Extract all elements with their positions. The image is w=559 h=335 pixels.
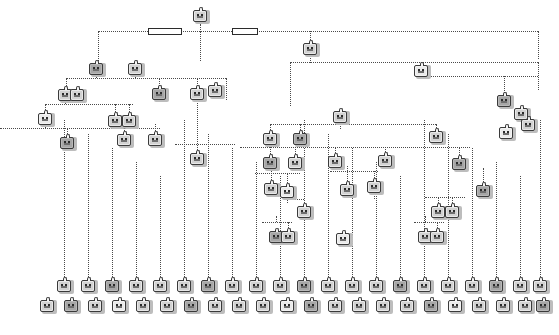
node-n25[interactable]	[263, 154, 279, 171]
node-leaf-u15[interactable]	[417, 277, 433, 294]
node-n34[interactable]	[476, 182, 492, 199]
connector-label-box-1[interactable]	[148, 28, 182, 35]
node-n28[interactable]	[378, 152, 394, 169]
node-leaf-l16[interactable]	[424, 297, 440, 314]
node-leaf-u0[interactable]	[57, 277, 73, 294]
node-n27[interactable]	[328, 153, 344, 170]
node-n24[interactable]	[190, 150, 206, 167]
node-leaf-l6[interactable]	[184, 297, 200, 314]
connector-v	[232, 148, 233, 277]
node-n1[interactable]	[303, 40, 319, 57]
node-mouth-icon	[340, 239, 346, 241]
node-n19[interactable]	[263, 130, 279, 147]
node-n18[interactable]	[148, 131, 164, 148]
node-n26[interactable]	[288, 154, 304, 171]
node-leaf-l17[interactable]	[448, 297, 464, 314]
node-n8[interactable]	[190, 85, 206, 102]
node-n13[interactable]	[38, 110, 54, 127]
node-face	[342, 186, 352, 194]
node-leaf-u7[interactable]	[225, 277, 241, 294]
node-leaf-u10[interactable]	[297, 277, 313, 294]
briefcase-face-icon	[414, 65, 428, 77]
node-leaf-l1[interactable]	[64, 297, 80, 314]
node-leaf-l9[interactable]	[256, 297, 272, 314]
node-face	[347, 282, 357, 290]
node-n33[interactable]	[367, 178, 383, 195]
briefcase-face-icon	[472, 300, 486, 312]
node-n2[interactable]	[89, 60, 105, 77]
node-n37[interactable]	[445, 203, 461, 220]
node-n0[interactable]	[193, 7, 209, 24]
node-leaf-l2[interactable]	[88, 297, 104, 314]
node-n15[interactable]	[122, 112, 138, 129]
node-n31[interactable]	[280, 183, 296, 200]
briefcase-face-icon	[489, 280, 503, 292]
node-leaf-u16[interactable]	[441, 277, 457, 294]
briefcase-face-icon	[201, 280, 215, 292]
node-leaf-l3[interactable]	[112, 297, 128, 314]
node-leaf-l10[interactable]	[280, 297, 296, 314]
node-leaf-l7[interactable]	[208, 297, 224, 314]
node-leaf-l19[interactable]	[496, 297, 512, 314]
node-n10[interactable]	[333, 108, 349, 125]
node-n6[interactable]	[70, 86, 86, 103]
node-leaf-u3[interactable]	[129, 277, 145, 294]
node-leaf-l18[interactable]	[472, 297, 488, 314]
node-leaf-u9[interactable]	[273, 277, 289, 294]
node-leaf-l15[interactable]	[400, 297, 416, 314]
node-leaf-l21[interactable]	[536, 297, 552, 314]
node-leaf-u1[interactable]	[81, 277, 97, 294]
node-n3[interactable]	[128, 60, 144, 77]
node-leaf-l8[interactable]	[232, 297, 248, 314]
node-leaf-u14[interactable]	[393, 277, 409, 294]
node-leaf-l12[interactable]	[328, 297, 344, 314]
node-n39[interactable]	[281, 228, 297, 245]
node-n21[interactable]	[429, 128, 445, 145]
node-n22[interactable]	[499, 124, 515, 141]
node-n40[interactable]	[336, 230, 352, 247]
node-leaf-l11[interactable]	[304, 297, 320, 314]
node-n20[interactable]	[293, 130, 309, 147]
node-n30[interactable]	[264, 180, 280, 197]
node-leaf-u8[interactable]	[249, 277, 265, 294]
node-handle-icon	[420, 62, 424, 66]
node-n32[interactable]	[340, 181, 356, 198]
node-n29[interactable]	[452, 155, 468, 172]
node-leaf-u6[interactable]	[201, 277, 217, 294]
node-handle-icon	[87, 277, 91, 281]
node-n16[interactable]	[60, 134, 76, 151]
node-leaf-u17[interactable]	[465, 277, 481, 294]
node-leaf-l13[interactable]	[352, 297, 368, 314]
node-mouth-icon	[68, 306, 74, 308]
node-n9[interactable]	[208, 82, 224, 99]
node-n11[interactable]	[497, 92, 513, 109]
node-leaf-u13[interactable]	[369, 277, 385, 294]
node-handle-icon	[287, 228, 291, 232]
node-leaf-l0[interactable]	[40, 297, 56, 314]
node-n17[interactable]	[117, 131, 133, 148]
briefcase-face-icon	[273, 280, 287, 292]
node-leaf-u18[interactable]	[489, 277, 505, 294]
node-leaf-u11[interactable]	[321, 277, 337, 294]
node-n23[interactable]	[521, 116, 537, 133]
node-leaf-u5[interactable]	[177, 277, 193, 294]
node-face	[380, 157, 390, 165]
connector-label-box-2[interactable]	[232, 28, 258, 35]
node-leaf-u19[interactable]	[513, 277, 529, 294]
briefcase-face-icon	[40, 300, 54, 312]
node-leaf-u12[interactable]	[345, 277, 361, 294]
node-n42[interactable]	[430, 228, 446, 245]
node-leaf-u4[interactable]	[153, 277, 169, 294]
briefcase-face-icon	[263, 133, 277, 145]
node-leaf-l14[interactable]	[376, 297, 392, 314]
node-leaf-u20[interactable]	[533, 277, 549, 294]
node-leaf-u2[interactable]	[105, 277, 121, 294]
node-n4[interactable]	[414, 62, 430, 79]
node-n7[interactable]	[152, 85, 168, 102]
node-mouth-icon	[61, 286, 67, 288]
node-leaf-l20[interactable]	[518, 297, 534, 314]
node-leaf-l4[interactable]	[136, 297, 152, 314]
node-n35[interactable]	[297, 203, 313, 220]
node-leaf-l5[interactable]	[160, 297, 176, 314]
node-face	[467, 282, 477, 290]
